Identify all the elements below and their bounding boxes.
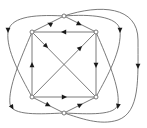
arrowhead-icon: [118, 28, 123, 33]
edge-t-to-tl: [32, 16, 64, 32]
directed-graph-diagram: [0, 0, 147, 128]
arrowhead-icon: [76, 21, 83, 28]
node-tl: [30, 30, 34, 34]
arrowhead-icon: [77, 101, 84, 108]
arrowhead-icon: [6, 28, 11, 33]
arrowhead-icon: [62, 95, 67, 100]
edge-t-to-b: [64, 9, 138, 122]
arrowhead-icon: [30, 62, 35, 67]
arrowhead-icon: [61, 30, 66, 35]
arrowhead-icon: [136, 64, 141, 69]
arrowhead-icon: [45, 102, 52, 109]
node-b: [62, 111, 66, 115]
node-bl: [30, 95, 34, 99]
arrowhead-icon: [94, 63, 99, 68]
node-br: [94, 95, 98, 99]
node-t: [62, 14, 66, 18]
node-tr: [94, 30, 98, 34]
